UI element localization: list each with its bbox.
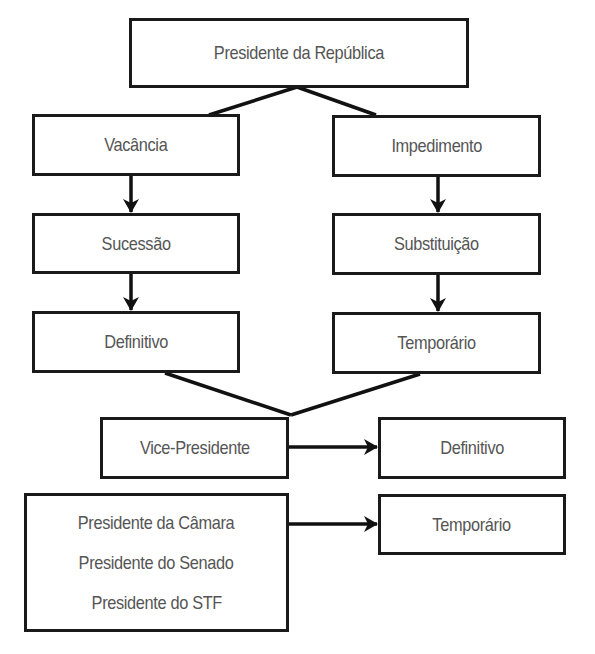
node-label: Definitivo	[440, 437, 504, 459]
president-of-senate: Presidente do Senado	[79, 543, 234, 583]
node-presidente-da-republica: Presidente da República	[129, 18, 469, 88]
node-label: Vacância	[104, 134, 167, 156]
root-split-connector	[209, 87, 376, 115]
merge-connector	[165, 373, 420, 415]
node-vacancia: Vacância	[32, 114, 240, 176]
node-label: Temporário	[397, 332, 475, 354]
node-label: Substituição	[394, 233, 479, 255]
president-of-stf: Presidente do STF	[91, 583, 221, 623]
node-label: Presidente da República	[214, 42, 384, 64]
node-label: Sucessão	[101, 233, 170, 255]
president-of-chamber: Presidente da Câmara	[78, 503, 235, 543]
node-definitivo-result: Definitivo	[378, 417, 566, 479]
node-label: Impedimento	[391, 135, 482, 157]
node-impedimento: Impedimento	[332, 115, 541, 177]
node-label: Vice-Presidente	[140, 437, 250, 459]
node-label: Temporário	[433, 514, 511, 536]
succession-flowchart: Presidente da República Vacância Impedim…	[0, 0, 595, 654]
node-definitivo-left: Definitivo	[32, 311, 240, 373]
node-substituicao: Substituição	[332, 213, 541, 275]
node-sucessao: Sucessão	[32, 213, 240, 274]
node-temporario-right: Temporário	[332, 312, 541, 374]
node-temporario-result: Temporário	[378, 494, 566, 555]
node-label: Definitivo	[104, 331, 168, 353]
node-line-of-succession: Presidente da Câmara Presidente do Senad…	[24, 493, 289, 632]
node-vice-presidente: Vice-Presidente	[100, 417, 289, 479]
